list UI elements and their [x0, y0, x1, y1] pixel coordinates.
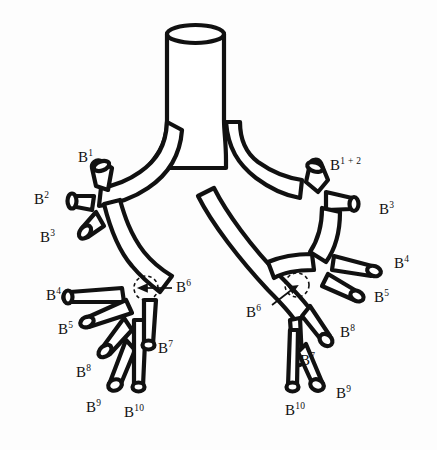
label-left-b10-base: B: [124, 404, 134, 420]
label-right-b4-base: B: [394, 255, 404, 271]
label-right-b9: B9: [336, 386, 351, 401]
right-lobe-connector: [268, 254, 314, 278]
label-right-b6-base: B: [246, 304, 256, 320]
left-b8-tip: [96, 342, 114, 359]
label-left-b1-sup: 1: [88, 148, 93, 158]
right-b3-tip: [350, 197, 359, 211]
label-right-b8: B8: [340, 325, 355, 340]
left-b2-tip: [68, 194, 77, 209]
label-left-b9-base: B: [86, 399, 96, 415]
label-left-b10-sup: 10: [134, 403, 144, 413]
label-right-b5-sup: 5: [384, 288, 389, 298]
right-upper-trunk: [310, 208, 340, 262]
label-right-b5-base: B: [374, 289, 384, 305]
label-left-b4: B4: [46, 288, 61, 303]
label-left-b8: B8: [76, 365, 91, 380]
label-right-b9-sup: 9: [346, 384, 351, 394]
label-left-b3: B3: [40, 230, 55, 245]
right-b10-tip: [287, 383, 299, 392]
right-main-bronchus: [226, 122, 302, 198]
label-left-b4-base: B: [46, 287, 56, 303]
label-right-b10-sup: 10: [295, 401, 305, 411]
left-b3-tip: [76, 223, 93, 241]
label-left-b5-base: B: [58, 321, 68, 337]
label-left-b3-sup: 3: [50, 228, 55, 238]
left-b10-tip: [133, 383, 145, 392]
right-b5-tip: [348, 288, 365, 303]
label-left-b3-base: B: [40, 229, 50, 245]
label-right-b7-base: B: [300, 352, 310, 368]
label-left-b6: B6: [176, 280, 191, 295]
bronchial-tree-figure: B1 B2 B3 B4 B5 B6 B7 B8 B9 B10 B1 + 2 B3…: [0, 0, 437, 450]
label-left-b5: B5: [58, 322, 73, 337]
label-right-b6: B6: [246, 305, 261, 320]
label-right-b8-sup: 8: [350, 323, 355, 333]
label-left-b2-base: B: [34, 191, 44, 207]
label-right-b1p2-base: B: [330, 157, 340, 173]
left-b7-tip: [143, 341, 155, 350]
label-right-b3: B3: [379, 202, 394, 217]
label-left-b9-sup: 9: [96, 398, 101, 408]
label-left-b2: B2: [34, 192, 49, 207]
left-b6-arrowhead: [139, 285, 147, 292]
right-b4-tip: [366, 264, 382, 278]
label-left-b4-sup: 4: [56, 286, 61, 296]
label-right-b4: B4: [394, 256, 409, 271]
label-right-b6-sup: 6: [256, 303, 261, 313]
label-right-b3-base: B: [379, 201, 389, 217]
label-right-b10-base: B: [285, 402, 295, 418]
trachea-rim: [167, 25, 224, 43]
label-left-b1-base: B: [78, 149, 88, 165]
label-right-b8-base: B: [340, 324, 350, 340]
label-left-b7-base: B: [158, 340, 168, 356]
label-left-b10: B10: [124, 405, 144, 420]
label-left-b7-sup: 7: [168, 339, 173, 349]
bronchial-tree-drawing: [0, 0, 437, 450]
label-right-b1p2-sup: 1 + 2: [340, 156, 361, 166]
right-b8-tip: [317, 331, 335, 348]
label-left-b9: B9: [86, 400, 101, 415]
left-b4-tip: [64, 291, 73, 304]
label-right-b4-sup: 4: [404, 254, 409, 264]
label-right-b7: B7: [300, 353, 315, 368]
label-right-b3-sup: 3: [389, 200, 394, 210]
label-left-b6-base: B: [176, 279, 186, 295]
label-right-b1-plus-2: B1 + 2: [330, 158, 361, 173]
label-right-b9-base: B: [336, 385, 346, 401]
label-left-b8-base: B: [76, 364, 86, 380]
label-left-b8-sup: 8: [86, 363, 91, 373]
label-left-b5-sup: 5: [68, 320, 73, 330]
label-left-b6-sup: 6: [186, 278, 191, 288]
left-main-bronchus: [99, 122, 182, 206]
airway-outlines: [63, 25, 382, 393]
label-left-b7: B7: [158, 341, 173, 356]
label-left-b1: B1: [78, 150, 93, 165]
label-right-b7-sup: 7: [310, 351, 315, 361]
label-left-b2-sup: 2: [44, 190, 49, 200]
label-right-b10: B10: [285, 403, 305, 418]
label-right-b5: B5: [374, 290, 389, 305]
